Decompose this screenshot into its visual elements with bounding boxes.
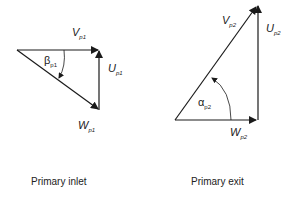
v-p2-label: Vp2 — [222, 14, 237, 28]
alpha-p2-label: αp2 — [198, 96, 212, 110]
w-p1-label: Wp1 — [78, 119, 95, 133]
beta-p1-label: βp1 — [44, 54, 58, 68]
u-p1-label: Up1 — [108, 62, 123, 76]
w-p2-label: Wp2 — [230, 126, 248, 140]
velocity-triangles-diagram: Vp1 Up1 Wp1 βp1 Vp2 Up2 Wp2 αp2 Primary … — [0, 0, 288, 203]
v-p1-label: Vp1 — [72, 26, 86, 40]
inlet-triangle: Vp1 Up1 Wp1 βp1 — [17, 26, 123, 133]
exit-triangle: Vp2 Up2 Wp2 αp2 — [175, 6, 281, 140]
inlet-caption: Primary inlet — [31, 176, 87, 187]
w-p1-vector — [17, 50, 98, 109]
exit-caption: Primary exit — [191, 176, 244, 187]
beta-angle-arc — [59, 50, 64, 78]
v-p2-vector — [175, 7, 256, 120]
u-p2-label: Up2 — [266, 22, 281, 36]
alpha-angle-arc — [212, 78, 231, 120]
